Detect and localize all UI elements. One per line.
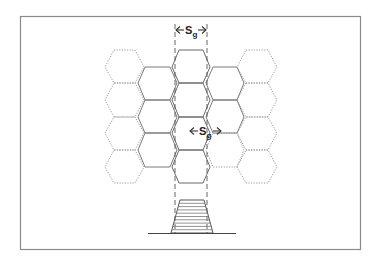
figure-frame [21,17,361,250]
right-outer-column [237,50,277,183]
top-spacing-subscript: g [193,30,198,39]
top-spacing-arrow: S g [176,24,206,39]
left-offset-column [138,67,177,167]
top-spacing-label: S [185,24,192,36]
middle-spacing-subscript: g [207,131,212,140]
middle-spacing-label: S [199,125,206,137]
hexagon-lattice-diagram: S g S g [0,0,378,262]
center-column [172,50,210,183]
right-offset-column [206,67,244,167]
